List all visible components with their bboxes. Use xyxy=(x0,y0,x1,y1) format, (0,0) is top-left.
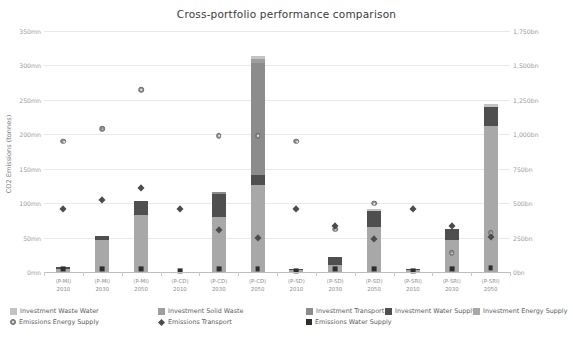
gridline xyxy=(44,31,510,32)
emission-marker[interactable] xyxy=(99,196,105,202)
plot-area xyxy=(44,31,510,272)
emission-marker[interactable] xyxy=(449,266,454,271)
bar-segment[interactable] xyxy=(134,215,148,272)
y-axis-left-tick-label: 50mn xyxy=(23,234,41,241)
bar-segment[interactable] xyxy=(445,229,459,240)
legend-marker-icon xyxy=(306,319,312,325)
legend-item[interactable]: Emissions Energy Supply xyxy=(10,318,99,326)
y-axis-left-tick-label: 350mn xyxy=(19,28,41,35)
y-axis-left-tick-label: 150mn xyxy=(19,165,41,172)
x-axis-label: (P-CD)2050 xyxy=(249,277,266,294)
x-label-year: 2050 xyxy=(134,286,148,292)
x-label-year: 2050 xyxy=(251,286,265,292)
bar-segment[interactable] xyxy=(251,185,265,272)
emission-marker[interactable] xyxy=(138,87,144,93)
bar-segment[interactable] xyxy=(134,201,148,215)
emission-marker[interactable] xyxy=(100,266,105,271)
emission-marker[interactable] xyxy=(216,133,222,139)
x-axis-tick xyxy=(44,272,45,276)
legend-item[interactable]: Investment Energy Supply xyxy=(473,307,567,315)
legend-label: Emissions Water Supply xyxy=(315,318,392,326)
emission-marker[interactable] xyxy=(139,266,144,271)
emission-marker[interactable] xyxy=(410,205,416,211)
x-label-year: 2010 xyxy=(173,286,187,292)
emission-marker[interactable] xyxy=(177,205,183,211)
legend-label: Emissions Energy Supply xyxy=(19,318,99,326)
emission-marker[interactable] xyxy=(60,205,66,211)
y-axis-right-tick-label: 750bn xyxy=(513,165,533,172)
legend-label: Investment Energy Supply xyxy=(483,307,567,315)
emission-marker[interactable] xyxy=(255,133,261,139)
x-label-year: 2050 xyxy=(367,286,381,292)
bar-segment[interactable] xyxy=(367,211,381,226)
legend-item[interactable]: Investment Water Supply xyxy=(385,307,476,315)
emission-marker[interactable] xyxy=(449,223,455,229)
gridline xyxy=(44,238,510,239)
emission-marker[interactable] xyxy=(255,266,260,271)
y-axis-left-tick-label: 0mn xyxy=(27,269,41,276)
x-axis-label: (P-SD)2050 xyxy=(366,277,383,294)
x-axis-label: (P-SRI)2050 xyxy=(482,277,500,294)
emission-marker[interactable] xyxy=(61,138,67,144)
x-label-year: 2010 xyxy=(406,286,420,292)
x-axis-tick xyxy=(199,272,200,276)
emission-marker[interactable] xyxy=(216,266,221,271)
gridline xyxy=(44,169,510,170)
bar-stack[interactable] xyxy=(484,104,498,272)
legend-item[interactable]: Emissions Transport xyxy=(158,318,232,326)
emission-marker[interactable] xyxy=(138,184,144,190)
bar-segment[interactable] xyxy=(328,257,342,266)
gridline xyxy=(44,100,510,101)
x-axis-tick xyxy=(394,272,395,276)
bar-segment[interactable] xyxy=(251,63,265,175)
x-label-year: 2030 xyxy=(328,286,342,292)
emission-marker[interactable] xyxy=(371,200,377,206)
legend-label: Investment Solid Waste xyxy=(168,307,243,315)
legend-item[interactable]: Investment Transport xyxy=(306,307,384,315)
emission-marker[interactable] xyxy=(293,205,299,211)
legend-item[interactable]: Investment Waste Water xyxy=(10,307,99,315)
emission-marker[interactable] xyxy=(449,250,455,256)
x-axis-label: (P-CD)2030 xyxy=(210,277,227,294)
x-label-portfolio: (P-SRI) xyxy=(482,278,500,284)
x-label-portfolio: (P-CD) xyxy=(249,278,266,284)
y-axis-left-tick-label: 250mn xyxy=(19,96,41,103)
emission-marker[interactable] xyxy=(333,266,338,271)
bar-stack[interactable] xyxy=(134,201,148,272)
legend-swatch-icon xyxy=(10,308,17,315)
x-label-portfolio: (P-MI) xyxy=(133,278,149,284)
bar-segment[interactable] xyxy=(251,175,265,185)
x-label-portfolio: (P-SD) xyxy=(327,278,344,284)
chart-title: Cross-portfolio performance comparison xyxy=(0,8,573,20)
legend-label: Emissions Transport xyxy=(168,318,232,326)
gridline xyxy=(44,65,510,66)
emission-marker[interactable] xyxy=(294,138,300,144)
legend-item[interactable]: Investment Solid Waste xyxy=(158,307,243,315)
x-label-year: 2010 xyxy=(290,286,304,292)
x-axis-label: (P-SRI)2030 xyxy=(443,277,461,294)
y-axis-right-tick-label: 500bn xyxy=(513,200,533,207)
emission-marker[interactable] xyxy=(488,265,493,270)
legend-row-investments: Investment Waste WaterInvestment Solid W… xyxy=(10,307,566,318)
x-axis-label: (P-MI)2030 xyxy=(94,277,110,294)
legend-label: Investment Waste Water xyxy=(20,307,99,315)
x-label-year: 2050 xyxy=(484,286,498,292)
bar-segment[interactable] xyxy=(484,126,498,272)
legend-swatch-icon xyxy=(158,308,165,315)
legend-label: Investment Transport xyxy=(316,307,384,315)
x-axis-tick xyxy=(161,272,162,276)
x-axis-label: (P-CD)2010 xyxy=(171,277,188,294)
y-axis-right-tick-label: 1,000bn xyxy=(513,131,539,138)
gridline xyxy=(44,203,510,204)
legend-item[interactable]: Emissions Water Supply xyxy=(306,318,392,326)
y-axis-left-title: CO2 Emissions (tonnes) xyxy=(5,89,13,219)
x-label-year: 2030 xyxy=(212,286,226,292)
emission-marker[interactable] xyxy=(372,266,377,271)
chart-legend: Investment Waste WaterInvestment Solid W… xyxy=(10,307,566,333)
emission-marker[interactable] xyxy=(99,126,105,132)
x-label-portfolio: (P-SRI) xyxy=(443,278,461,284)
bar-segment[interactable] xyxy=(484,107,498,126)
bar-segment[interactable] xyxy=(212,194,226,217)
emission-marker[interactable] xyxy=(61,266,66,271)
x-label-portfolio: (P-SRI) xyxy=(404,278,422,284)
